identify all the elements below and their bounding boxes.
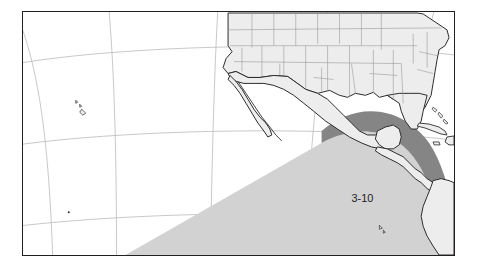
- map-page: 3-10: [0, 0, 478, 273]
- jamaica-island: [433, 142, 440, 145]
- map-frame[interactable]: 3-10: [22, 11, 455, 256]
- zone-label-3-10: 3-10: [351, 192, 373, 204]
- clipperton-island: [68, 211, 70, 213]
- map-canvas[interactable]: 3-10: [23, 12, 454, 255]
